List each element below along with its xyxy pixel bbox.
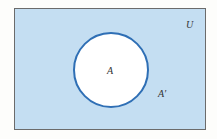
set-a-label: A [106,65,114,76]
universe-label: U [186,19,194,30]
venn-diagram: U A A′ [0,0,217,139]
complement-label: A′ [157,88,167,99]
